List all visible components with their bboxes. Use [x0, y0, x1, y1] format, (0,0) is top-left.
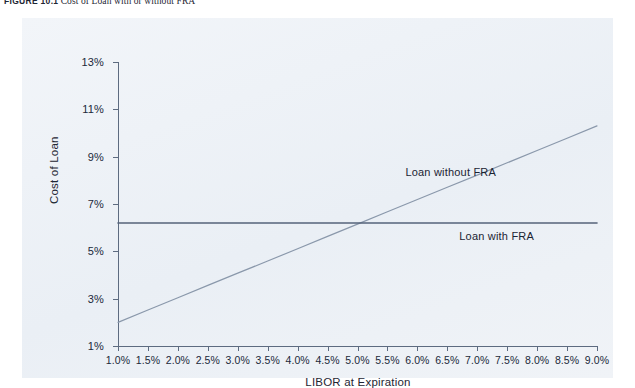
x-tick-label: 6.0%	[405, 354, 429, 366]
x-tick-label: 5.0%	[345, 354, 369, 366]
y-tick-label: 13%	[81, 56, 104, 68]
plot-area: 13%11%9%7%5%3%1% 1.0%1.5%2.0%2.5%3.0%3.5…	[118, 62, 597, 346]
figure-number: FIGURE 10.1	[4, 0, 58, 6]
x-tick-label: 7.0%	[465, 354, 489, 366]
y-axis-title: Cost of Loan	[48, 136, 60, 204]
x-tick-label: 2.5%	[196, 354, 220, 366]
x-tick-label: 9.0%	[585, 354, 609, 366]
x-tick-label: 2.0%	[166, 354, 190, 366]
y-tick-label: 5%	[88, 245, 104, 257]
series-lines	[118, 62, 597, 347]
x-tick-label: 4.0%	[285, 354, 309, 366]
series-label-loan-with-fra: Loan with FRA	[459, 230, 534, 242]
series-label-loan-without-fra: Loan without FRA	[405, 166, 496, 178]
y-tick-label: 11%	[82, 103, 104, 115]
x-tick-label: 1.0%	[106, 354, 130, 366]
series-line-loan-without-fra	[118, 126, 597, 322]
x-axis-title: LIBOR at Expiration	[305, 376, 410, 388]
figure-caption: FIGURE 10.1 Cost of Loan with or without…	[4, 0, 195, 6]
x-tick-label: 4.5%	[315, 354, 339, 366]
x-tick-mark	[597, 346, 598, 351]
x-axis-tick-labels: 1.0%1.5%2.0%2.5%3.0%3.5%4.0%4.5%5.0%5.5%…	[118, 354, 598, 370]
x-tick-label: 7.5%	[495, 354, 519, 366]
x-tick-label: 8.5%	[555, 354, 579, 366]
x-tick-label: 8.0%	[525, 354, 549, 366]
x-tick-label: 6.5%	[435, 354, 459, 366]
figure-title: Cost of Loan with or without FRA	[61, 0, 196, 6]
x-tick-label: 3.0%	[226, 354, 250, 366]
x-tick-label: 5.5%	[375, 354, 399, 366]
x-tick-label: 1.5%	[136, 354, 160, 366]
chart-panel: Cost of Loan LIBOR at Expiration 13%11%9…	[22, 18, 613, 378]
y-tick-label: 9%	[88, 151, 104, 163]
y-tick-label: 7%	[88, 198, 104, 210]
x-tick-label: 3.5%	[256, 354, 280, 366]
y-tick-label: 3%	[88, 293, 104, 305]
y-tick-label: 1%	[88, 340, 104, 352]
